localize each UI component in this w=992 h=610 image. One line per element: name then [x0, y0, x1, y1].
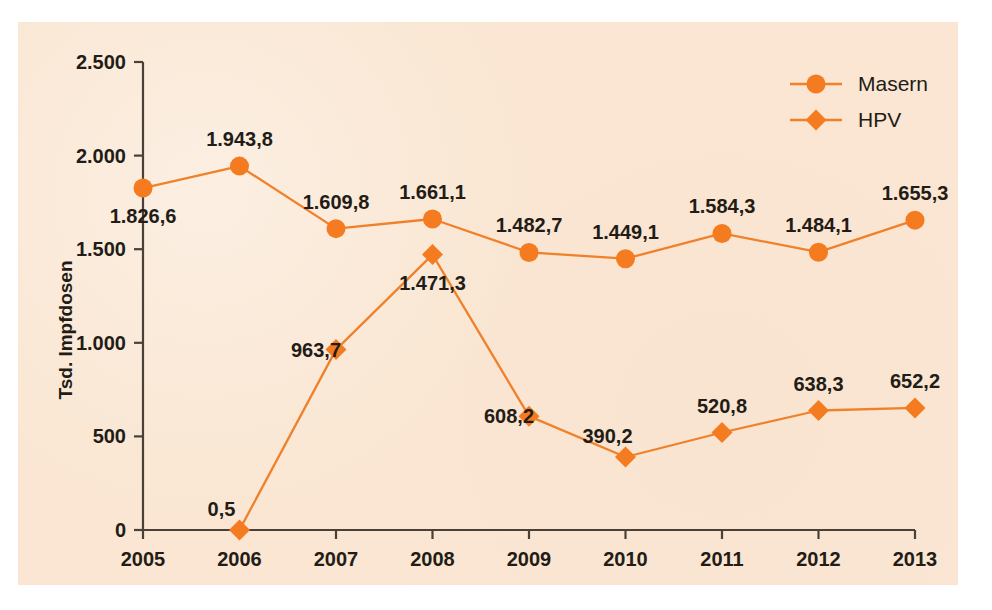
data-label-masern-2011: 1.584,3: [689, 195, 756, 217]
data-point-marker-hpv-2006: [229, 519, 250, 540]
data-label-masern-2010: 1.449,1: [592, 221, 659, 243]
y-tick-label: 500: [93, 425, 126, 447]
data-label-hpv-2006: 0,5: [208, 498, 236, 520]
data-point-marker-hpv-2011: [712, 422, 733, 443]
x-tick-label: 2013: [893, 548, 938, 570]
y-tick-label: 2.500: [76, 51, 126, 73]
data-point-marker-masern-2005: [134, 179, 153, 198]
data-label-masern-2005: 1.826,6: [110, 205, 177, 227]
x-tick-label: 2012: [796, 548, 841, 570]
x-tick-label: 2008: [410, 548, 455, 570]
data-label-masern-2012: 1.484,1: [785, 214, 852, 236]
x-tick-label: 2011: [700, 548, 743, 570]
x-tick-label: 2007: [314, 548, 359, 570]
y-axis-title: Tsd. Impfdosen: [55, 261, 76, 400]
data-label-hpv-2008: 1.471,3: [399, 272, 466, 294]
chart-legend: MasernHPV: [790, 72, 928, 131]
data-label-hpv-2012: 638,3: [793, 373, 843, 395]
data-point-marker-masern-2006: [230, 157, 249, 176]
data-label-hpv-2010: 390,2: [582, 425, 632, 447]
data-point-marker-masern-2008: [423, 210, 442, 229]
data-point-marker-masern-2011: [713, 224, 732, 243]
legend-marker-hpv: [806, 110, 827, 131]
data-label-hpv-2011: 520,8: [697, 395, 747, 417]
y-tick-label: 1.000: [76, 332, 126, 354]
data-label-masern-2007: 1.609,8: [303, 191, 370, 213]
data-point-marker-hpv-2012: [808, 400, 829, 421]
y-tick-label: 2.000: [76, 145, 126, 167]
x-tick-label: 2006: [217, 548, 262, 570]
x-tick-label: 2009: [507, 548, 552, 570]
legend-marker-masern: [807, 75, 826, 94]
data-label-masern-2013: 1.655,3: [882, 182, 949, 204]
data-labels-group: 1.826,61.943,81.609,81.661,11.482,71.449…: [110, 128, 949, 520]
data-point-marker-masern-2012: [809, 243, 828, 262]
data-point-marker-masern-2013: [906, 211, 925, 230]
data-label-masern-2006: 1.943,8: [206, 128, 273, 150]
y-tick-label: 0: [115, 519, 126, 541]
data-label-hpv-2007: 963,7: [291, 339, 341, 361]
data-point-marker-masern-2010: [616, 249, 635, 268]
data-point-marker-hpv-2010: [615, 446, 636, 467]
data-point-marker-masern-2007: [327, 219, 346, 238]
y-tick-label: 1.500: [76, 238, 126, 260]
legend-label-hpv: HPV: [858, 108, 901, 131]
x-tick-label: 2005: [121, 548, 166, 570]
line-chart: 05001.0001.5002.0002.500 200520062007200…: [0, 0, 992, 610]
data-label-masern-2009: 1.482,7: [496, 214, 563, 236]
data-label-hpv-2009: 608,2: [484, 405, 534, 427]
data-point-marker-hpv-2013: [905, 397, 926, 418]
x-tick-label: 2010: [603, 548, 648, 570]
data-label-hpv-2013: 652,2: [890, 370, 940, 392]
y-axis-ticks: 05001.0001.5002.0002.500: [76, 51, 143, 541]
legend-label-masern: Masern: [858, 72, 928, 95]
data-label-masern-2008: 1.661,1: [399, 181, 466, 203]
data-point-marker-masern-2009: [520, 243, 539, 262]
chart-figure: 05001.0001.5002.0002.500 200520062007200…: [0, 0, 992, 610]
